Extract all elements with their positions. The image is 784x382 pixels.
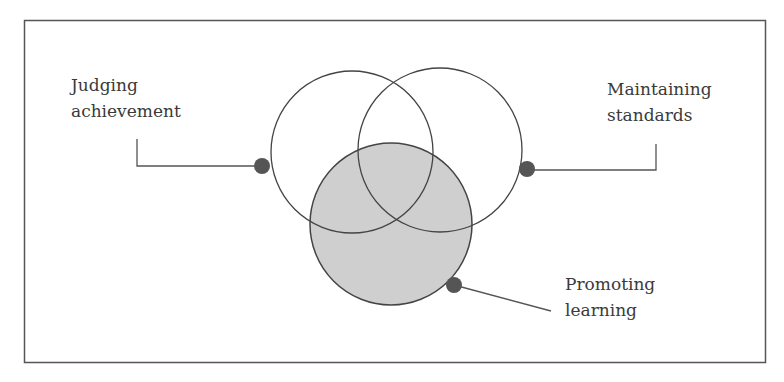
label-line-1: Promoting (565, 271, 655, 297)
connector-maintaining (527, 144, 656, 170)
label-promoting-learning: Promoting learning (565, 271, 655, 323)
connector-judging (137, 139, 262, 166)
label-line-1: Judging (71, 72, 181, 98)
marker-dot-maintaining (519, 161, 535, 177)
label-line-1: Maintaining (607, 76, 712, 102)
label-maintaining-standards: Maintaining standards (607, 76, 712, 128)
marker-dot-promoting (446, 277, 462, 293)
venn-diagram (0, 0, 784, 382)
marker-dot-judging (254, 158, 270, 174)
label-judging-achievement: Judging achievement (71, 72, 181, 124)
label-line-2: achievement (71, 98, 181, 124)
connector-promoting (454, 285, 551, 311)
label-line-2: standards (607, 102, 712, 128)
label-line-2: learning (565, 297, 655, 323)
